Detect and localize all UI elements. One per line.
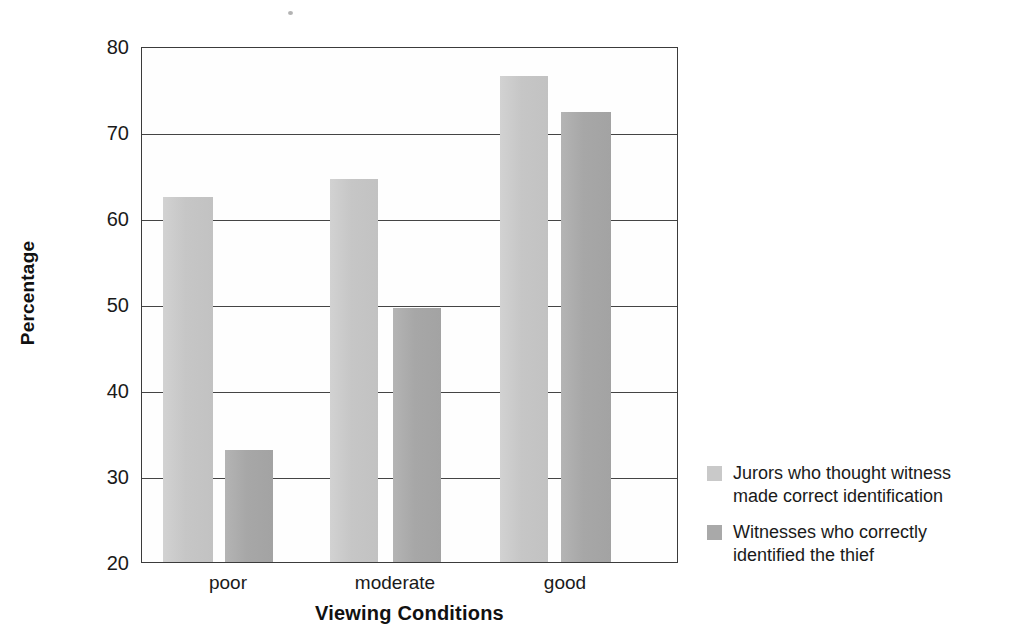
legend-label-jurors: Jurors who thought witness made correct …	[733, 462, 951, 508]
y-axis-tick-labels: 80 70 60 50 40 30 20	[85, 47, 129, 563]
legend: Jurors who thought witness made correct …	[707, 462, 1007, 580]
legend-swatch-jurors-icon	[707, 466, 722, 481]
bar-moderate-jurors	[330, 179, 378, 562]
legend-label-witnesses: Witnesses who correctly identified the t…	[733, 521, 927, 567]
bar-poor-witnesses	[225, 450, 273, 562]
legend-swatch-witnesses-icon	[707, 525, 722, 540]
bar-chart-figure: Percentage 80 70 60 50 40 30 20 poor mod…	[0, 0, 1011, 644]
y-tick-50: 50	[89, 294, 129, 317]
bar-moderate-witnesses	[393, 308, 441, 562]
x-tick-poor: poor	[209, 572, 247, 594]
y-tick-70: 70	[89, 122, 129, 145]
y-tick-60: 60	[89, 208, 129, 231]
x-tick-moderate: moderate	[355, 572, 435, 594]
bar-good-witnesses	[561, 112, 611, 562]
bar-good-jurors	[500, 76, 548, 562]
x-axis-title: Viewing Conditions	[141, 602, 678, 625]
legend-item-witnesses: Witnesses who correctly identified the t…	[707, 521, 1007, 567]
y-tick-30: 30	[89, 466, 129, 489]
scan-speck	[288, 11, 293, 15]
x-tick-good: good	[544, 572, 586, 594]
y-axis-title: Percentage	[17, 213, 39, 373]
bar-poor-jurors	[163, 197, 213, 563]
y-tick-80: 80	[89, 36, 129, 59]
y-tick-20: 20	[89, 552, 129, 575]
plot-area	[141, 47, 678, 563]
legend-item-jurors: Jurors who thought witness made correct …	[707, 462, 1007, 508]
y-tick-40: 40	[89, 380, 129, 403]
